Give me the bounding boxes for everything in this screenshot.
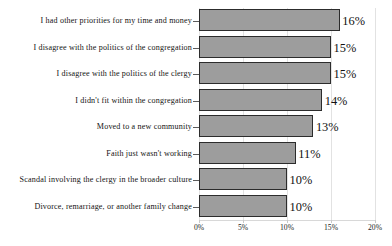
category-label: I didn't fit within the congregation bbox=[75, 88, 192, 115]
bar-value-label: 11% bbox=[296, 141, 321, 168]
bar bbox=[199, 142, 296, 164]
bar bbox=[199, 62, 331, 84]
x-tick-mark bbox=[199, 220, 200, 223]
horizontal-bar-chart: I had other priorities for my time and m… bbox=[0, 0, 392, 246]
category-label: Divorce, remarriage, or another family c… bbox=[34, 194, 192, 221]
bar-value-label: 15% bbox=[331, 61, 356, 88]
bar bbox=[199, 36, 331, 58]
bar bbox=[199, 115, 313, 137]
bar-row: Scandal involving the clergy in the broa… bbox=[0, 167, 392, 194]
bar-row: I disagree with the politics of the cler… bbox=[0, 61, 392, 88]
bar-row: I disagree with the politics of the cong… bbox=[0, 35, 392, 62]
x-tick-label: 10% bbox=[280, 223, 294, 232]
bar-value-label: 10% bbox=[287, 167, 312, 194]
x-tick-mark bbox=[287, 220, 288, 223]
bar-row: I had other priorities for my time and m… bbox=[0, 8, 392, 35]
bar-row: Moved to a new community13% bbox=[0, 114, 392, 141]
category-label: I disagree with the politics of the cler… bbox=[57, 61, 192, 88]
x-tick-mark bbox=[331, 220, 332, 223]
x-tick-mark bbox=[243, 220, 244, 223]
category-label: Moved to a new community bbox=[97, 114, 192, 141]
category-label: I disagree with the politics of the cong… bbox=[33, 35, 192, 62]
bar-row: Faith just wasn't working11% bbox=[0, 141, 392, 168]
bar-value-label: 15% bbox=[331, 35, 356, 62]
x-tick-label: 15% bbox=[324, 223, 338, 232]
x-tick-label: 20% bbox=[368, 223, 382, 232]
category-label: Scandal involving the clergy in the broa… bbox=[20, 167, 192, 194]
bar bbox=[199, 168, 287, 190]
category-label: I had other priorities for my time and m… bbox=[41, 8, 192, 35]
bar bbox=[199, 195, 287, 217]
bar-row: Divorce, remarriage, or another family c… bbox=[0, 194, 392, 221]
bar bbox=[199, 9, 340, 31]
bar-value-label: 10% bbox=[287, 194, 312, 221]
bar bbox=[199, 89, 322, 111]
bar-row: I didn't fit within the congregation14% bbox=[0, 88, 392, 115]
x-tick-label: 0% bbox=[194, 223, 204, 232]
category-label: Faith just wasn't working bbox=[106, 141, 192, 168]
x-tick-mark bbox=[375, 220, 376, 223]
bar-value-label: 13% bbox=[313, 114, 338, 141]
x-tick-label: 5% bbox=[238, 223, 248, 232]
bar-value-label: 14% bbox=[322, 88, 347, 115]
bar-value-label: 16% bbox=[340, 8, 365, 35]
